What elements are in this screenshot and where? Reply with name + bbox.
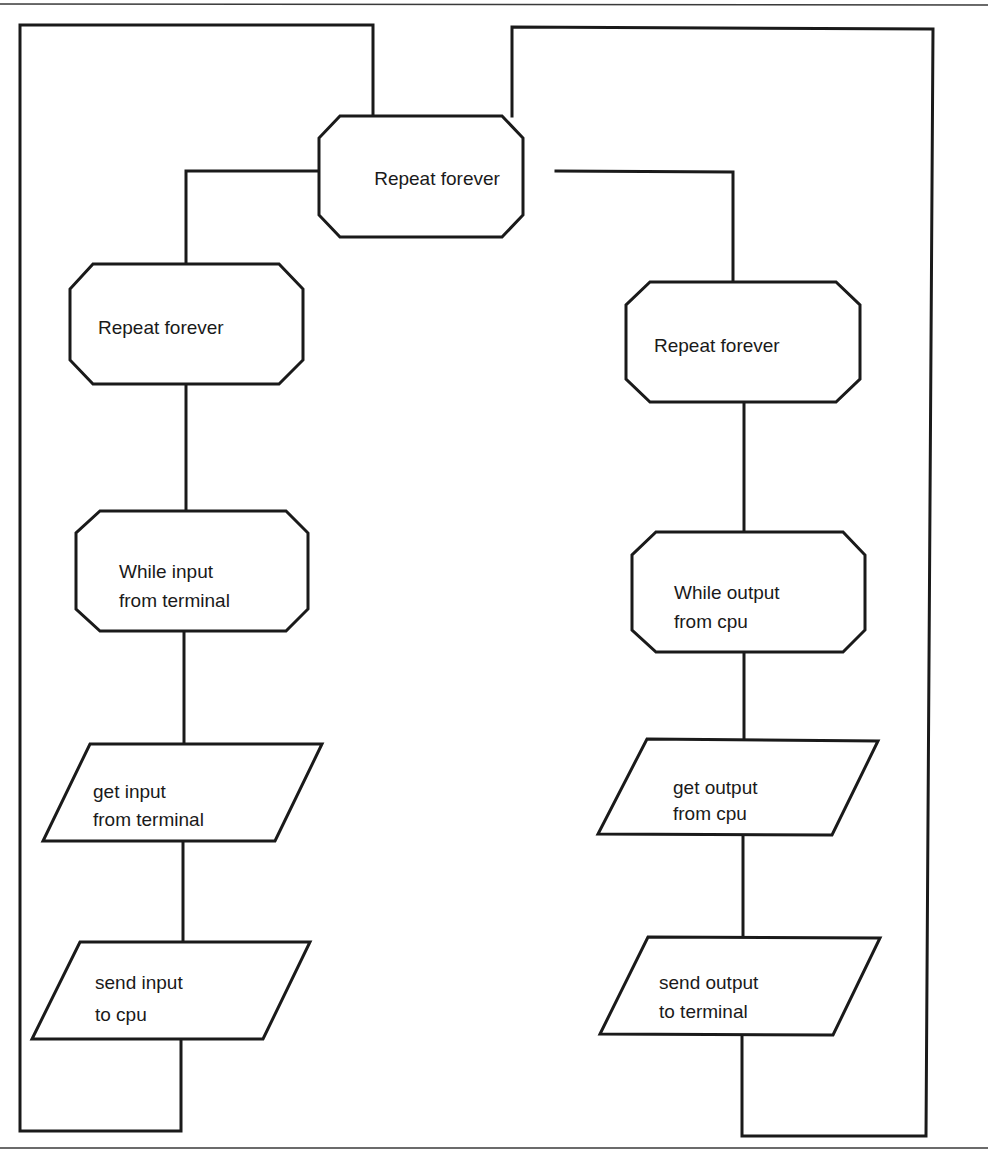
node-label: Repeat forever [374, 168, 500, 189]
svg-text:While output: While output [674, 582, 780, 603]
edge-top-to-left-loop [186, 171, 320, 264]
svg-text:Repeat forever: Repeat forever [98, 317, 224, 338]
node-label-line-1: While output [674, 582, 780, 603]
node-left-repeat-forever: Repeat forever [70, 264, 303, 384]
node-label: Repeat forever [654, 335, 780, 356]
node-label-line-1: get output [673, 777, 758, 798]
node-label-line-1: While input [119, 561, 214, 582]
svg-text:from cpu: from cpu [674, 611, 748, 632]
svg-text:to cpu: to cpu [95, 1004, 147, 1025]
node-send-output-to-terminal: send output to terminal [600, 937, 880, 1035]
top-border-rule [0, 4, 988, 5]
svg-text:get output: get output [673, 777, 758, 798]
svg-text:send input: send input [95, 972, 183, 993]
node-send-input-to-cpu: send input to cpu [32, 942, 310, 1039]
svg-text:send output: send output [659, 972, 759, 993]
svg-text:While input: While input [119, 561, 214, 582]
svg-text:from terminal: from terminal [93, 809, 204, 830]
svg-text:get input: get input [93, 781, 167, 802]
svg-text:Repeat forever: Repeat forever [374, 168, 500, 189]
node-get-input-from-terminal: get input from terminal [43, 744, 322, 841]
node-label-line-2: to terminal [659, 1001, 748, 1022]
node-while-input-from-terminal: While input from terminal [76, 511, 308, 631]
svg-text:from cpu: from cpu [673, 803, 747, 824]
node-label-line-2: from terminal [93, 809, 204, 830]
flowchart-diagram: Repeat forever Repeat forever Repeat for… [0, 0, 988, 1154]
node-label-line-2: from cpu [673, 803, 747, 824]
svg-text:from terminal: from terminal [119, 590, 230, 611]
node-label: Repeat forever [98, 317, 224, 338]
node-top-repeat-forever: Repeat forever [319, 116, 523, 237]
node-while-output-from-cpu: While output from cpu [632, 532, 865, 652]
node-label-line-2: from cpu [674, 611, 748, 632]
node-label-line-2: from terminal [119, 590, 230, 611]
svg-text:to terminal: to terminal [659, 1001, 748, 1022]
svg-text:Repeat forever: Repeat forever [654, 335, 780, 356]
node-right-repeat-forever: Repeat forever [626, 282, 860, 402]
node-label-line-1: send output [659, 972, 759, 993]
node-label-line-1: send input [95, 972, 183, 993]
node-get-output-from-cpu: get output from cpu [598, 739, 878, 835]
node-label-line-1: get input [93, 781, 167, 802]
edge-top-to-right-loop [556, 171, 733, 282]
node-label-line-2: to cpu [95, 1004, 147, 1025]
